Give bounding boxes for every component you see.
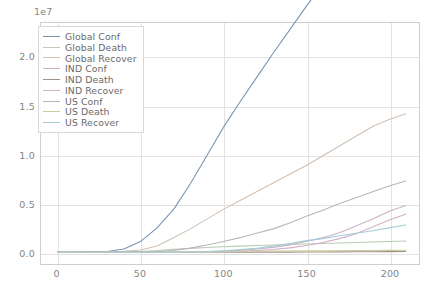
legend-item: IND Conf [43,63,137,74]
legend-item: US Conf [43,96,137,107]
legend-item: IND Death [43,74,137,85]
legend-item: US Death [43,107,137,118]
y-axis-offset-text: 1e7 [34,6,53,17]
legend-line-swatch-icon [43,36,60,37]
series-line-global-recover [58,114,406,253]
legend-line-swatch-icon [43,101,60,102]
legend-line-swatch-icon [43,122,60,123]
legend-line-swatch-icon [43,57,60,58]
legend-item: US Recover [43,117,137,128]
legend-line-swatch-icon [43,111,60,112]
legend-label: US Recover [65,117,119,128]
y-tick-label: 2.0 [19,51,35,62]
series-line-us-recover [58,225,406,252]
legend-item: Global Death [43,42,137,53]
legend-label: Global Conf [65,31,120,42]
legend-line-swatch-icon [43,47,60,48]
y-tick-label: 0.0 [19,248,35,259]
legend-label: IND Recover [65,85,124,96]
x-tick-label: 200 [381,268,400,279]
legend-item: IND Recover [43,85,137,96]
series-line-us-conf [58,181,406,252]
chart-legend: Global ConfGlobal DeathGlobal RecoverIND… [38,26,144,133]
chart-figure: 1e7 050100150200 0.00.51.01.52.0 Global … [0,0,430,293]
legend-item: Global Conf [43,31,137,42]
x-tick-label: 50 [134,268,147,279]
legend-label: US Conf [65,96,103,107]
legend-line-swatch-icon [43,68,60,69]
x-tick-label: 150 [297,268,316,279]
x-tick-label: 100 [214,268,233,279]
series-line-ind-conf [58,205,406,252]
y-tick-label: 0.5 [19,199,35,210]
legend-label: US Death [65,106,110,117]
y-tick-label: 1.5 [19,100,35,111]
legend-label: IND Death [65,74,114,85]
x-tick-label: 0 [54,268,60,279]
y-tick-label: 1.0 [19,149,35,160]
legend-label: Global Death [65,42,127,53]
legend-item: Global Recover [43,53,137,64]
legend-line-swatch-icon [43,90,60,91]
legend-label: Global Recover [65,53,137,64]
legend-line-swatch-icon [43,79,60,80]
legend-label: IND Conf [65,63,107,74]
